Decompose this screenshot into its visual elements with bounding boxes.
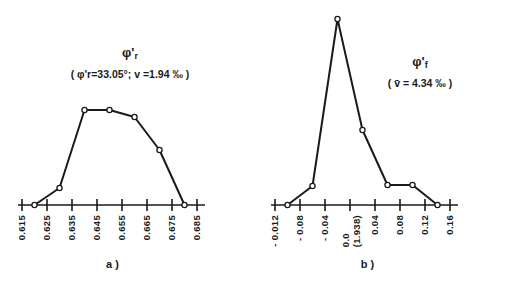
data-point <box>310 183 315 188</box>
panel-b-tick-label: 0.16 <box>445 215 455 235</box>
panel-a-tick-label: 0.645 <box>92 215 102 240</box>
panel-b-caption: b ) <box>340 258 395 270</box>
panel-a-caption: a ) <box>85 258 140 270</box>
tick-label-zero-sub: (1.938) <box>351 215 362 247</box>
data-point <box>285 202 290 207</box>
panel-a-tick-label: 0.675 <box>167 215 177 240</box>
figure-root: φ'r ( φ'r=33.05°; v =1.94 ‰ ) <box>0 0 510 284</box>
data-point <box>57 185 62 190</box>
tick-label-zero-main: 0.0 <box>340 233 351 247</box>
panel-b-data-markers <box>285 16 440 207</box>
data-point <box>32 202 37 207</box>
panel-b-plot <box>255 0 510 284</box>
data-point <box>385 182 390 187</box>
panel-a-tick-label: 0.635 <box>67 215 77 240</box>
panel-a-tick-label: 0.665 <box>142 215 152 240</box>
panel-a-tick-label: 0.625 <box>42 215 52 240</box>
panel-b-tick-label: 0.12 <box>420 215 430 235</box>
data-point <box>182 202 187 207</box>
panel-a-series-line <box>35 110 185 205</box>
data-point <box>157 147 162 152</box>
panel-a-tick-label: 0.615 <box>17 215 27 240</box>
data-point <box>107 107 112 112</box>
panel-a-tick-label: 0.685 <box>192 215 202 240</box>
data-point <box>132 114 137 119</box>
panel-a: φ'r ( φ'r=33.05°; v =1.94 ‰ ) <box>0 0 255 284</box>
data-point <box>410 182 415 187</box>
panel-b-tick-label-zero: 0.0(1.938) <box>341 215 363 247</box>
panel-b: φ'f ( v̄ = 4.34 ‰ ) <box>255 0 510 284</box>
data-point <box>335 16 340 21</box>
panel-a-tick-label: 0.655 <box>117 215 127 240</box>
panel-b-tick-label: 0.04 <box>370 215 380 235</box>
data-point <box>435 202 440 207</box>
panel-a-plot <box>0 0 255 284</box>
panel-b-tick-label: - 0.04 <box>320 215 330 241</box>
panel-b-tick-label: - 0.08 <box>295 215 305 241</box>
panel-b-tick-label: 0.08 <box>395 215 405 235</box>
panel-b-series-line <box>288 19 438 205</box>
data-point <box>360 127 365 132</box>
panel-b-tick-label: - 0.012 <box>270 215 280 247</box>
data-point <box>82 107 87 112</box>
